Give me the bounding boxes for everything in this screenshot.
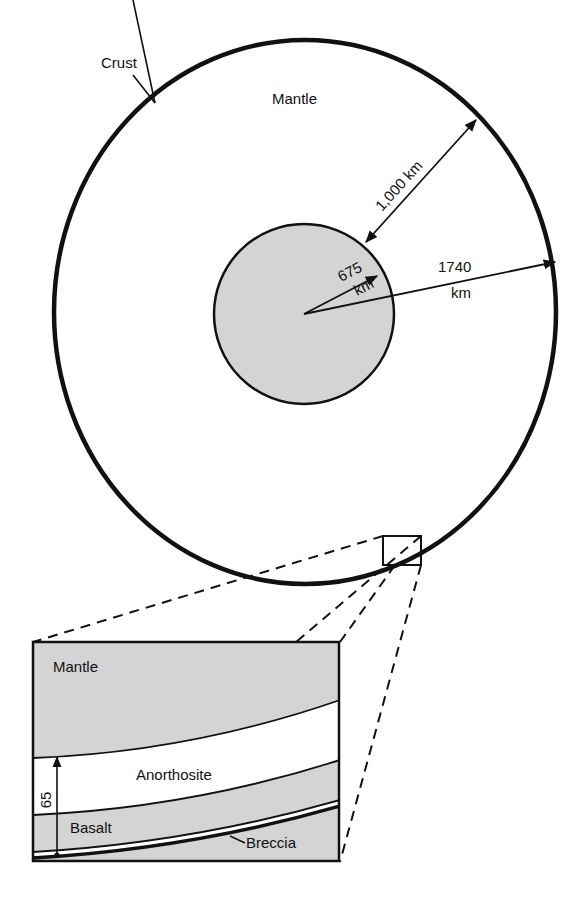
crust-label: Crust [101, 54, 138, 71]
total-radius-unit: km [451, 284, 471, 301]
inset-basalt-label: Basalt [70, 819, 113, 836]
inset-breccia-label: Breccia [246, 834, 297, 851]
mantle-label: Mantle [272, 90, 317, 107]
crust-leader-line [133, 0, 155, 103]
crust-inset: Mantle Anorthosite Basalt Breccia 65 [33, 642, 340, 861]
total-radius-value: 1740 [438, 258, 471, 275]
crust-thickness-label: 65 [37, 792, 54, 809]
globe: Crust Mantle 1,000 km 675 km 1740 km [54, 0, 556, 584]
inset-mantle-label: Mantle [53, 658, 98, 675]
lunar-interior-diagram: Crust Mantle 1,000 km 675 km 1740 km [0, 0, 572, 901]
inset-anorthosite-label: Anorthosite [136, 766, 212, 783]
